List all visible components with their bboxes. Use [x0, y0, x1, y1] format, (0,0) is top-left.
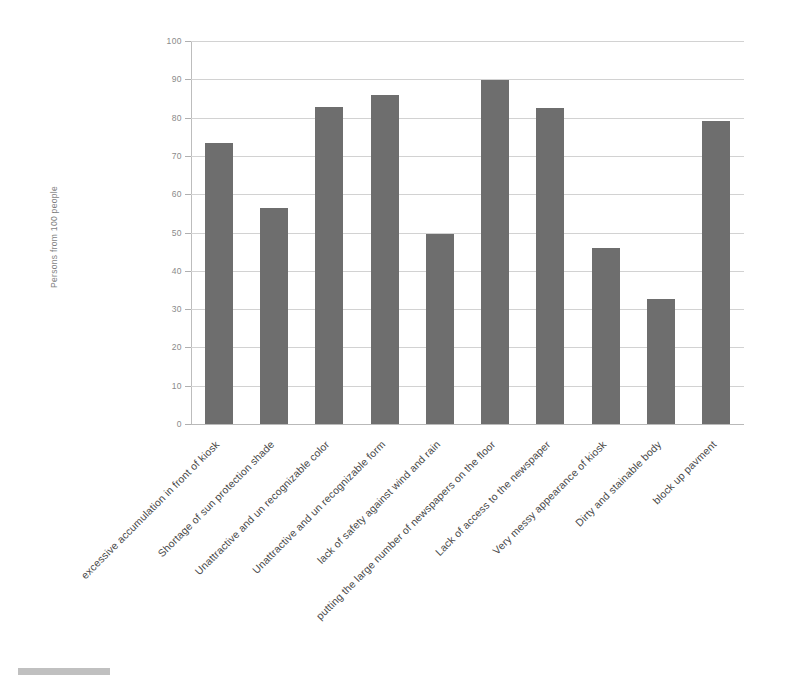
- bar-slot: [246, 41, 301, 424]
- y-tick-mark-10: [185, 386, 191, 387]
- bar: [371, 95, 399, 424]
- y-tick-mark-50: [185, 233, 191, 234]
- bar-chart-figure: Persons from 100 people 0102030405060708…: [0, 0, 789, 698]
- y-tick-mark-30: [185, 309, 191, 310]
- bar: [205, 143, 233, 424]
- bar-slot: [302, 41, 357, 424]
- y-tick-mark-40: [185, 271, 191, 272]
- plot-area: [191, 41, 744, 424]
- x-axis-label: Lack of access to the newspaper: [433, 438, 553, 558]
- bar: [702, 121, 730, 424]
- bar-slot: [633, 41, 688, 424]
- y-tick-mark-60: [185, 194, 191, 195]
- bar: [260, 208, 288, 424]
- bar-slot: [578, 41, 633, 424]
- bar-slot: [689, 41, 744, 424]
- y-tick-label-100: 100: [142, 36, 182, 46]
- y-tick-label-70: 70: [142, 151, 182, 161]
- y-tick-label-10: 10: [142, 381, 182, 391]
- y-tick-label-30: 30: [142, 304, 182, 314]
- y-tick-mark-20: [185, 347, 191, 348]
- x-axis-category-labels: excessive accumulation in front of kiosk…: [0, 424, 789, 698]
- bar: [426, 234, 454, 424]
- y-tick-mark-70: [185, 156, 191, 157]
- y-tick-label-60: 60: [142, 189, 182, 199]
- y-tick-mark-100: [185, 41, 191, 42]
- y-tick-mark-80: [185, 118, 191, 119]
- bar-slot: [468, 41, 523, 424]
- y-tick-label-50: 50: [142, 228, 182, 238]
- bar: [536, 108, 564, 424]
- bar: [647, 299, 675, 424]
- bar-slot: [523, 41, 578, 424]
- y-tick-label-80: 80: [142, 113, 182, 123]
- y-tick-label-40: 40: [142, 266, 182, 276]
- y-tick-label-20: 20: [142, 342, 182, 352]
- x-axis-label: Very messy appearance of kiosk: [490, 438, 609, 557]
- x-axis-label: Shortage of sun protection shade: [155, 438, 276, 559]
- bar: [592, 248, 620, 424]
- y-tick-mark-0: [185, 424, 191, 425]
- bar-slot: [357, 41, 412, 424]
- y-tick-mark-90: [185, 79, 191, 80]
- bar: [315, 107, 343, 424]
- y-tick-label-90: 90: [142, 74, 182, 84]
- scan-artifact: [18, 668, 110, 675]
- bar-slot: [191, 41, 246, 424]
- y-axis-title: Persons from 100 people: [49, 147, 59, 327]
- bar-slot: [412, 41, 467, 424]
- bar: [481, 80, 509, 424]
